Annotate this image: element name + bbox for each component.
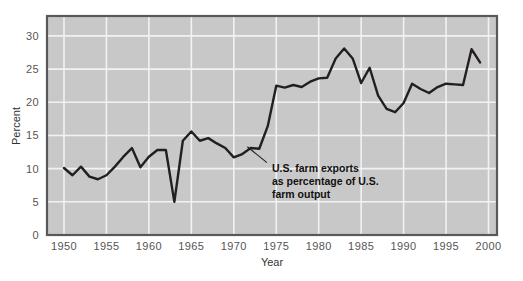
y-tick-label: 25 [26, 63, 39, 75]
x-tick-label: 1990 [391, 240, 417, 252]
y-tick-label: 0 [32, 229, 39, 241]
x-tick-label: 1950 [51, 240, 77, 252]
x-tick-label: 1980 [306, 240, 332, 252]
x-tick-label: 1960 [136, 240, 162, 252]
y-tick-label: 30 [26, 30, 39, 42]
y-tick-label: 10 [26, 163, 39, 175]
x-axis-title: Year [261, 256, 284, 268]
x-tick-label: 1970 [221, 240, 247, 252]
y-tick-label: 20 [26, 96, 39, 108]
x-tick-label: 1985 [348, 240, 374, 252]
line-chart: 051015202530 195019551960196519701975198… [0, 0, 523, 281]
x-axis-tick-labels: 1950195519601965197019751980198519901995… [51, 240, 502, 252]
callout-line: farm output [272, 188, 331, 200]
x-tick-label: 2000 [475, 240, 501, 252]
x-tick-label: 1965 [178, 240, 204, 252]
y-axis-title: Percent [10, 107, 22, 145]
x-tick-label: 1975 [263, 240, 289, 252]
callout-line: U.S. farm exports [272, 162, 359, 174]
callout-line: as percentage of U.S. [272, 175, 379, 187]
x-tick-label: 1955 [93, 240, 119, 252]
y-axis-tick-labels: 051015202530 [26, 30, 39, 241]
x-tick-label: 1995 [433, 240, 459, 252]
y-tick-label: 15 [26, 129, 39, 141]
chart-figure: 051015202530 195019551960196519701975198… [0, 0, 523, 281]
y-tick-label: 5 [32, 196, 39, 208]
